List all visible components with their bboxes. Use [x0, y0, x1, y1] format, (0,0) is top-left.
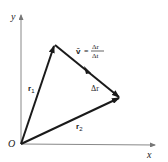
- vector-r1: [21, 46, 54, 144]
- equals-sign: =: [84, 47, 89, 56]
- vector-diagram: y x O r1 r2 Δr v̄ = Δr Δt: [0, 0, 168, 162]
- x-axis-label: x: [146, 149, 152, 160]
- r1-label: r1: [28, 84, 35, 94]
- r2-label: r2: [76, 122, 83, 132]
- vector-r2: [21, 98, 119, 144]
- v-bar-symbol: v̄: [76, 47, 81, 56]
- equation-numerator: Δr: [92, 43, 100, 51]
- y-axis-label: y: [10, 11, 16, 22]
- equation-denominator: Δt: [92, 52, 99, 60]
- delta-r-mid-arrowhead: [84, 66, 91, 74]
- origin-label: O: [8, 138, 15, 149]
- velocity-equation: v̄ = Δr Δt: [76, 43, 104, 60]
- x-axis: [21, 144, 155, 145]
- delta-r-label: Δr: [91, 84, 99, 93]
